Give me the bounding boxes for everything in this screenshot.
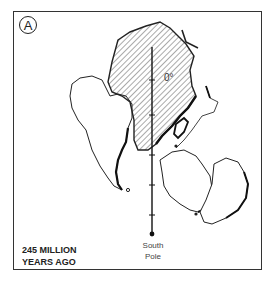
south-pole-label-line1: South [138,240,168,251]
age-caption-line2: YEARS AGO [22,256,77,268]
south-pole-label-line2: Pole [138,251,168,262]
gondwana-map [0,0,273,284]
age-caption-line1: 245 MILLION [22,244,77,256]
south-pole-dot [150,232,155,237]
island-dot [126,188,129,191]
island-dot [174,144,177,147]
panel-label: A [24,19,33,32]
island-dot [194,212,197,215]
meridian-label: 0° [164,72,174,83]
panel-label-badge: A [19,16,37,34]
age-caption: 245 MILLION YEARS AGO [22,244,77,268]
south-pole-label: South Pole [138,240,168,262]
